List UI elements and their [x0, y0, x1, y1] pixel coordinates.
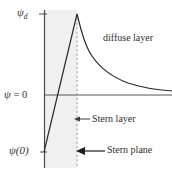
- stern-plane-arrow: [76, 147, 105, 155]
- y-axis-label-psi-surface: ψ(0): [9, 145, 29, 156]
- y-axis-label-psi-d: ψd: [17, 7, 28, 21]
- annotation-diffuse-layer: diffuse layer: [103, 33, 153, 43]
- stern-potential-figure: ψd ψ = 0 ψ(0) diffuse layer Stern layer …: [0, 0, 172, 174]
- psi-d-subscript: d: [24, 12, 28, 21]
- psi-d-symbol: ψ: [17, 6, 24, 18]
- annotation-stern-layer: Stern layer: [92, 114, 136, 124]
- psi-equals-zero-value: = 0: [11, 89, 27, 100]
- psi-symbol: ψ: [4, 88, 11, 100]
- annotation-stern-plane: Stern plane: [107, 145, 152, 155]
- y-axis-label-psi-equals-zero: ψ = 0: [4, 89, 27, 101]
